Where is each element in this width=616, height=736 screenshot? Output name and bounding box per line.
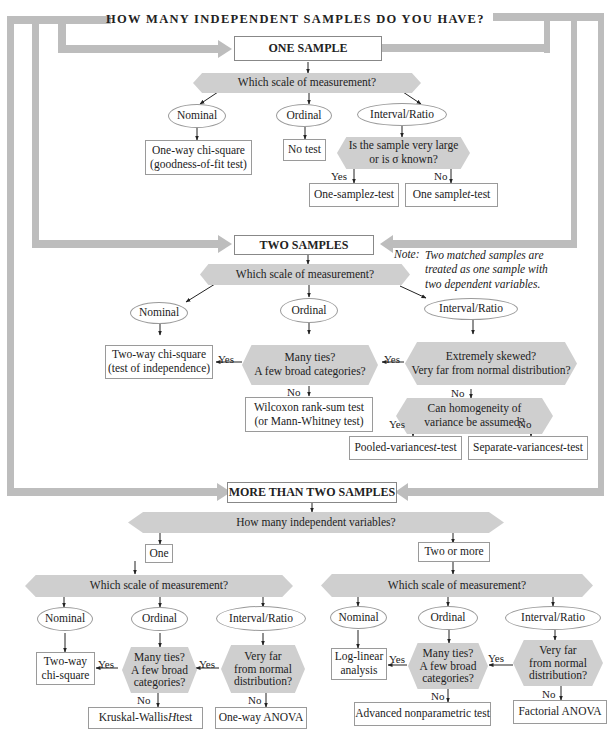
independent-variables-question: How many independent variables?	[128, 512, 504, 533]
yes-label: Yes	[389, 653, 405, 665]
question-line: Is the sample very large	[349, 139, 459, 153]
question-line: variance be assumed?	[424, 416, 524, 430]
yes-label: Yes	[384, 353, 400, 365]
question-line: Very far from normal distribution?	[411, 364, 570, 378]
two-iv-ordinal: Ordinal	[418, 606, 478, 630]
one-iv-normality-question: Very far from normal distribution?	[221, 645, 305, 693]
test-name: Separate-variances	[473, 441, 560, 455]
question-line: from normal	[234, 663, 292, 676]
two-samples-scale-question: Which scale of measurement?	[200, 264, 410, 285]
main-question-title: HOW MANY INDEPENDENT SAMPLES DO YOU HAVE…	[106, 12, 485, 27]
one-sample-scale-question: Which scale of measurement?	[193, 73, 421, 93]
one-iv-many-ties-question: Many ties? A few broad categories?	[122, 647, 197, 693]
no-label: No	[137, 694, 150, 706]
yes-label: Yes	[218, 353, 234, 365]
two-way-chi-square-box-mtt: Two-way chi-square	[36, 652, 95, 685]
test-name: One sample	[413, 188, 468, 202]
question-line: or is σ known?	[369, 153, 437, 167]
no-label: No	[542, 688, 555, 700]
test-name: -test	[437, 441, 457, 455]
question-line: Can homogeneity of	[428, 402, 522, 416]
test-name: test	[176, 711, 192, 725]
question-line: categories?	[422, 672, 474, 685]
test-name-line: Wilcoxon rank-sum test	[254, 401, 364, 415]
question-line: A few broad	[420, 660, 477, 673]
yes-label: Yes	[98, 658, 114, 670]
two-iv-scale-question: Which scale of measurement?	[321, 574, 593, 597]
yes-label: Yes	[488, 652, 504, 664]
note-line: two dependent variables.	[425, 277, 548, 291]
note-line: treated as one sample with	[425, 262, 548, 276]
question-line: distribution?	[234, 675, 292, 688]
no-label: No	[518, 418, 531, 430]
test-name: -test	[563, 441, 583, 455]
one-iv-box: One	[145, 544, 173, 563]
question-line: Many ties?	[134, 651, 185, 664]
yes-label: Yes	[389, 418, 405, 430]
advanced-nonparametric-test-box: Advanced nonparametric test	[354, 702, 491, 726]
no-label: No	[451, 387, 464, 399]
question-line: distribution?	[529, 669, 587, 682]
two-iv-many-ties-question: Many ties? A few broad categories?	[408, 643, 488, 689]
wilcoxon-test-box: Wilcoxon rank-sum test (or Mann-Whitney …	[245, 397, 373, 432]
statistical-test-flowchart: HOW MANY INDEPENDENT SAMPLES DO YOU HAVE…	[0, 0, 616, 736]
one-iv-scale-question: Which scale of measurement?	[25, 575, 293, 597]
test-name-line: Two-way	[44, 655, 87, 669]
many-ties-question: Many ties? A few broad categories?	[242, 345, 378, 385]
one-way-anova-box: One-way ANOVA	[215, 707, 307, 729]
factorial-anova-box: Factorial ANOVA	[513, 700, 607, 724]
matched-samples-note: Two matched samples are treated as one s…	[425, 248, 548, 291]
two-samples-nominal: Nominal	[130, 302, 188, 324]
note-line: Two matched samples are	[425, 248, 548, 262]
kruskal-wallis-test-box: Kruskal-Wallis H test	[88, 707, 203, 729]
one-sample-z-test-box: One-sample z-test	[309, 183, 399, 207]
test-name: -test	[471, 188, 491, 202]
note-prefix: Note:	[394, 248, 420, 260]
question-line: from normal	[529, 657, 587, 670]
test-name-line: (or Mann-Whitney test)	[254, 415, 363, 429]
no-label: No	[248, 694, 261, 706]
pooled-variances-t-test-box: Pooled-variances t-test	[349, 436, 462, 460]
two-iv-interval-ratio: Interval/Ratio	[505, 606, 601, 630]
test-name-line: analysis	[340, 664, 377, 678]
test-name-line: One-way chi-square	[152, 144, 245, 158]
test-name-line: (goodness-of-fit test)	[150, 158, 247, 172]
yes-label: Yes	[199, 658, 215, 670]
one-sample-header: ONE SAMPLE	[234, 36, 382, 61]
question-line: A few broad categories?	[254, 365, 365, 379]
test-name: One-sample	[314, 188, 370, 202]
question-line: Very far	[244, 650, 281, 663]
yes-label: Yes	[331, 170, 347, 182]
question-line: Many ties?	[423, 647, 474, 660]
separate-variances-t-test-box: Separate-variances t-test	[468, 436, 588, 460]
test-name: Kruskal-Wallis	[99, 711, 168, 725]
skewed-question: Extremely skewed? Very far from normal d…	[405, 342, 577, 385]
test-name: Pooled-variances	[354, 441, 433, 455]
one-sample-interval-ratio: Interval/Ratio	[357, 103, 447, 126]
no-test-box: No test	[283, 139, 326, 161]
one-iv-ordinal: Ordinal	[131, 607, 188, 631]
question-line: A few broad	[131, 664, 188, 677]
test-name-line: Log-linear	[335, 650, 384, 664]
one-sample-nominal: Nominal	[168, 104, 226, 128]
no-label: No	[434, 170, 447, 182]
one-sample-t-test-box: One sample t-test	[405, 183, 498, 207]
test-name-line: Two-way chi-square	[112, 348, 206, 362]
two-samples-header: TWO SAMPLES	[234, 235, 374, 255]
one-way-chi-square-box: One-way chi-square (goodness-of-fit test…	[145, 140, 252, 175]
question-line: categories?	[134, 676, 186, 689]
two-way-chi-square-box: Two-way chi-square (test of independence…	[105, 345, 213, 379]
one-iv-interval-ratio: Interval/Ratio	[216, 606, 306, 631]
two-iv-nominal: Nominal	[330, 606, 387, 629]
test-name-line: chi-square	[42, 669, 90, 683]
sample-large-sigma-question: Is the sample very large or is σ known?	[337, 137, 470, 169]
test-variable: H	[168, 711, 176, 725]
question-line: Very far	[539, 644, 576, 657]
two-or-more-iv-box: Two or more	[418, 542, 490, 562]
two-iv-normality-question: Very far from normal distribution?	[513, 640, 603, 686]
no-label: No	[431, 690, 444, 702]
question-line: Many ties?	[285, 351, 336, 365]
log-linear-analysis-box: Log-linear analysis	[331, 648, 387, 680]
test-name: -test	[374, 188, 394, 202]
test-name-line: (test of independence)	[108, 362, 210, 376]
